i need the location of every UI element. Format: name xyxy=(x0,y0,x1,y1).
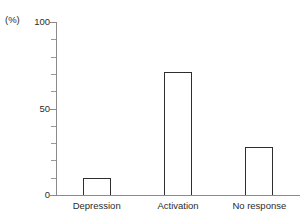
y-tick-label: 100 xyxy=(4,17,50,27)
bar xyxy=(164,72,192,195)
plot-area xyxy=(56,22,300,195)
y-tick-label: 50 xyxy=(4,104,50,114)
bar-chart-figure: (%) 050100 DepressionActivationNo respon… xyxy=(0,0,304,224)
x-category-label: Activation xyxy=(157,200,198,211)
bar xyxy=(245,147,273,195)
x-axis-category-labels: DepressionActivationNo response xyxy=(56,200,300,220)
x-category-label: No response xyxy=(232,200,286,211)
bar xyxy=(83,178,111,195)
y-axis-tick-labels: 050100 xyxy=(0,0,50,224)
y-tick-major xyxy=(50,195,57,196)
x-category-label: Depression xyxy=(73,200,121,211)
x-axis-line xyxy=(56,195,300,196)
y-tick-label: 0 xyxy=(4,190,50,200)
